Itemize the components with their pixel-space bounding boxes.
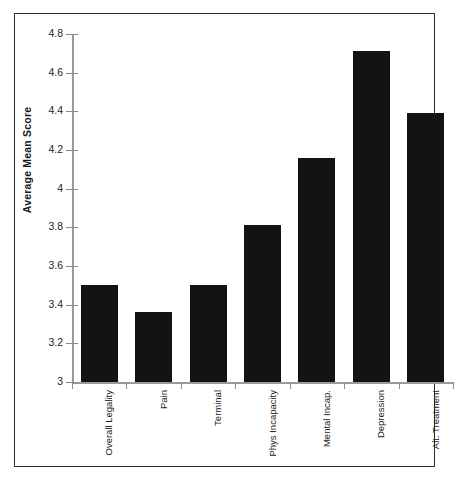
plot-area: Average Mean Score 4.84.64.44.243.83.63.…	[15, 14, 434, 466]
bar	[298, 158, 335, 382]
x-axis-label: Terminal	[212, 390, 223, 426]
chart-figure-frame: Average Mean Score 4.84.64.44.243.83.63.…	[14, 13, 435, 467]
bar	[135, 312, 172, 382]
x-axis-tick	[290, 382, 291, 389]
x-axis-tick	[72, 382, 73, 389]
x-axis-label: Depression	[375, 390, 386, 438]
x-axis-tick	[235, 382, 236, 389]
bar	[190, 285, 227, 382]
x-axis-label: Alt. Treatment	[430, 390, 441, 449]
x-axis-label: Pain	[158, 390, 169, 409]
x-axis-tick	[399, 382, 400, 389]
x-axis-tick	[126, 382, 127, 389]
x-axis-label: Phys Incapacity	[267, 390, 278, 457]
scan-artifact-text	[0, 0, 450, 13]
bars-layer	[15, 14, 434, 383]
bar	[353, 51, 390, 382]
x-axis-tick	[181, 382, 182, 389]
x-axis-label: Mental Incap.	[321, 390, 332, 447]
bar	[407, 113, 444, 382]
x-axis-tick	[344, 382, 345, 389]
bar	[244, 225, 281, 382]
x-axis-label: Overall Legality	[103, 390, 114, 455]
bar	[81, 285, 118, 382]
